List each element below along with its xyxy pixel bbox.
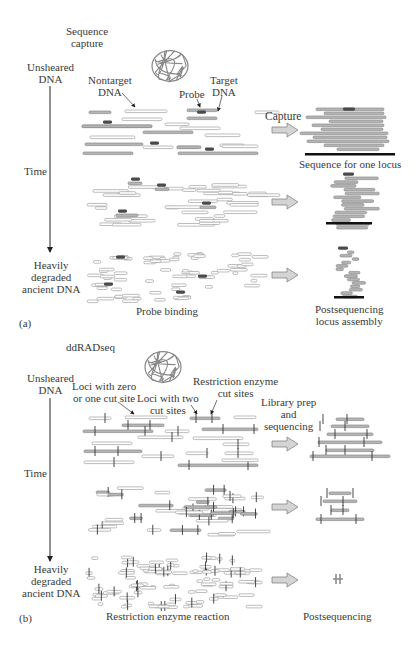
dna-fragment [218,191,232,194]
dna-fragment [222,145,258,148]
target-fragment [310,455,390,458]
target-fragment [187,117,217,120]
dna-fragment [180,127,220,130]
target-fragment [345,177,379,180]
dna-fragment [250,569,262,572]
dna-fragment [117,487,143,490]
target-fragment [335,211,367,214]
target-fragment [312,124,384,127]
dna-fragment [173,275,187,278]
target-fragment [344,188,375,191]
annot-line: sequencing [261,420,316,432]
annot-line: or one cut site [72,392,136,404]
pointer-arrow [218,96,222,111]
target-fragment [316,518,364,521]
dna-fragment [90,136,135,139]
dna-fragment [173,572,188,575]
dna-fragment [97,287,107,290]
probe-icon [197,111,206,114]
axis-line: Unsheared [27,372,74,384]
target-fragment [336,418,364,421]
dna-fragment [252,256,268,259]
panel-a-title: Sequence capture [66,25,108,49]
axis-b-top-label: Unsheared DNA [27,372,74,396]
dna-fragment [173,296,178,299]
pointer-arrow [211,400,217,414]
dna-fragment [174,253,181,256]
panel-b-label: (b) [19,612,32,624]
dna-fragment [93,261,100,264]
annot-line: cut sites [137,404,199,416]
target-fragment [190,417,220,420]
target-fragment [108,493,123,496]
dna-fragment [212,579,220,582]
probe-icon [150,142,159,145]
dna-fragment [193,437,243,440]
target-fragment [327,433,373,436]
annot-line: DNA [210,86,238,98]
target-fragment [184,506,217,509]
axis-line: Heavily [22,259,80,271]
dna-fragment [99,268,114,271]
dna-fragment [121,605,126,608]
dna-fragment [237,253,251,256]
target-fragment [331,509,349,512]
dna-fragment [133,297,141,300]
axis-line: Unsheared [27,61,74,73]
target-fragment [344,275,357,278]
target-fragment [347,278,359,281]
dna-fragment [232,254,239,257]
axis-line: DNA [27,73,74,85]
target-fragment [306,116,386,119]
target-fragment [313,136,387,139]
target-fragment [85,143,143,146]
dna-fragment [234,416,256,419]
dna-fragment [214,215,225,218]
dna-fragment [247,194,280,197]
dna-fragment [155,298,166,301]
dna-fragment [217,198,232,201]
dna-fragment [225,452,253,455]
probe-label: Probe [179,88,205,100]
probe-icon [338,247,348,250]
target-fragment [307,140,389,143]
axis-a-top-label: Unsheared DNA [27,61,74,85]
dna-fragment [196,601,204,604]
dna-fragment [204,578,210,581]
probe-icon [343,173,354,176]
process-arrow-icon [272,573,298,587]
dna-fragment [223,443,249,446]
annot-line: Restriction enzyme [193,375,278,387]
dna-fragment [161,269,171,272]
target-fragment [349,288,362,291]
target-fragment [342,261,351,264]
dna-fragment [230,568,244,571]
axis-a-bottom-label: Heavily degraded ancient DNA [22,259,80,295]
probe-icon [103,121,112,124]
dna-fragment [114,278,126,281]
dna-fragment [149,561,163,564]
dna-fragment [150,260,161,263]
target-fragment [116,214,138,217]
dna-fragment [222,459,258,462]
dna-fragment [211,271,218,274]
target-fragment [329,120,383,123]
target-fragment [89,111,111,114]
dna-fragment [223,495,241,498]
dna-fragment [251,496,263,499]
target-fragment [342,200,374,203]
target-fragment [178,152,258,155]
target-fragment [205,489,226,492]
dna-fragment [125,416,167,419]
dna-fragment [186,452,208,455]
dna-fragment [239,580,255,583]
target-fragment [348,251,354,254]
dna-fragment [96,207,107,210]
dna-fragment [89,417,111,420]
target-fragment [331,425,369,428]
dna-fragment [188,605,202,608]
axis-line: degraded [22,271,80,283]
dna-fragment [200,219,229,222]
dna-fragment [193,255,205,258]
dna-fragment [197,189,221,192]
